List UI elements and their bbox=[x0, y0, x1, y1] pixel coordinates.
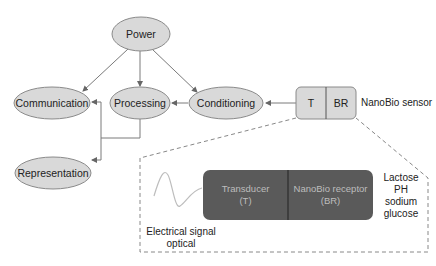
power-label: Power bbox=[112, 28, 170, 40]
diagram-canvas bbox=[0, 0, 436, 266]
transducer-line2: (T) bbox=[203, 195, 288, 207]
sensor-t-label: T bbox=[296, 97, 326, 109]
analytes-list: Lactose PH sodium glucose bbox=[378, 172, 424, 220]
analyte-item: glucose bbox=[378, 208, 424, 220]
signal-line1: Electrical signal bbox=[144, 226, 218, 238]
sensor-br-label: BR bbox=[326, 97, 356, 109]
edge-to-representation bbox=[92, 102, 101, 160]
receptor-label: NanoBio receptor (BR) bbox=[288, 183, 373, 207]
edge-processing-branch bbox=[101, 117, 140, 138]
analyte-item: sodium bbox=[378, 196, 424, 208]
communication-label: Communication bbox=[14, 97, 90, 109]
transducer-label: Transducer (T) bbox=[203, 183, 288, 207]
receptor-line2: (BR) bbox=[288, 195, 373, 207]
signal-wave-icon bbox=[154, 173, 202, 207]
edge-power-communication bbox=[83, 49, 128, 91]
edge-power-conditioning bbox=[152, 49, 197, 92]
signal-label: Electrical signal optical bbox=[144, 226, 218, 250]
analyte-item: PH bbox=[378, 184, 424, 196]
representation-label: Representation bbox=[15, 167, 91, 179]
signal-line2: optical bbox=[144, 238, 218, 250]
sensor-name: NanoBio sensor bbox=[361, 97, 432, 109]
transducer-line1: Transducer bbox=[203, 183, 288, 195]
processing-label: Processing bbox=[110, 97, 170, 109]
receptor-line1: NanoBio receptor bbox=[288, 183, 373, 195]
analyte-item: Lactose bbox=[378, 172, 424, 184]
conditioning-label: Conditioning bbox=[189, 97, 263, 109]
